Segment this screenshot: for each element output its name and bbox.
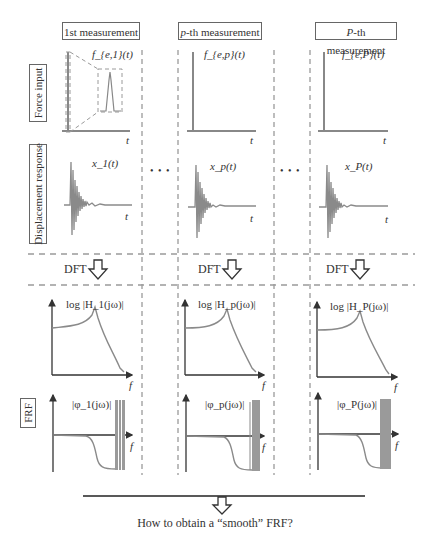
phase-label-P: |φ_P(jω)| [337,398,377,410]
magnitude-plot-p [185,300,264,375]
dft-label-1: DFT [64,262,87,277]
time-axis-label-force-P: t [383,134,386,146]
force-label-1: f_{e,1}(t) [92,48,133,60]
freq-axis-label-phase-p: f [262,441,265,453]
freq-axis-label-phase-P: f [395,439,398,451]
time-axis-label-force-1: t [126,134,129,146]
magnitude-plot-1 [52,300,132,375]
freq-axis-label-mag-P: f [394,381,397,393]
displacement-plot-p [188,165,256,238]
bottom-arrow [213,497,231,514]
displacement-label-1: x_1(t) [92,157,118,169]
displacement-label-p: x_p(t) [210,160,236,172]
time-axis-label-disp-1: t [125,210,128,222]
time-axis-label-force-p: t [250,134,253,146]
dft-label-p: DFT [198,262,221,277]
magnitude-label-1: log |H_1(jω)| [66,298,124,310]
question-caption: How to obtain a “smooth” FRF? [0,516,430,531]
displacement-plot-1 [64,162,132,235]
freq-axis-label-mag-1: f [129,379,132,391]
force-plot-1 [62,52,130,132]
magnitude-label-p: log |H_p(jω)| [198,298,256,310]
force-plot-P [318,52,388,131]
time-axis-label-disp-p: t [250,212,253,224]
ellipsis-right: • • • [280,165,301,176]
phase-label-p: |φ_p(jω)| [205,398,244,410]
column-separators [142,50,310,475]
dft-label-P: DFT [326,262,349,277]
time-axis-label-disp-P: t [385,213,388,225]
force-plot-p [187,52,256,131]
freq-axis-label-phase-1: f [130,440,133,452]
displacement-label-P: x_P(t) [345,160,372,172]
phase-label-1: |φ_1(jω)| [72,398,111,410]
force-label-P: f_{e,P}(t) [342,48,384,60]
displacement-plot-P [319,165,388,238]
freq-axis-label-mag-p: f [262,379,265,391]
ellipsis-left: • • • [150,165,171,176]
force-label-p: f_{e,p}(t) [204,48,245,60]
magnitude-label-P: log |H_P(jω)| [330,300,388,312]
magnitude-plot-P [317,302,397,377]
